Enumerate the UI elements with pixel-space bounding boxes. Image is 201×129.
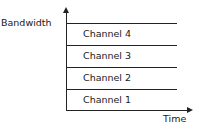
channel-divider-top (66, 23, 177, 24)
channel-divider (66, 67, 177, 68)
channel-divider (66, 45, 177, 46)
y-axis (66, 10, 67, 111)
channel-label-1: Channel 1 (83, 94, 131, 105)
channel-label-2: Channel 2 (83, 72, 131, 83)
x-axis (66, 110, 189, 111)
x-axis-arrow-icon (187, 107, 193, 113)
channel-label-3: Channel 3 (83, 50, 131, 61)
channel-label-4: Channel 4 (83, 28, 131, 39)
channel-divider (66, 89, 177, 90)
y-axis-label: Bandwidth (1, 17, 52, 28)
bandwidth-time-diagram: Bandwidth Channel 4 Channel 3 Channel 2 … (0, 0, 201, 129)
x-axis-label: Time (163, 113, 186, 124)
